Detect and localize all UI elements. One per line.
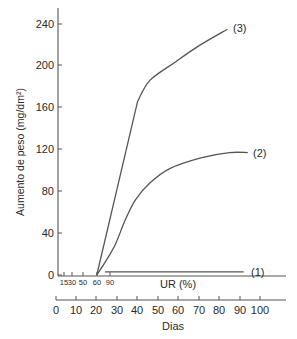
ur-axis-title: UR (%) — [160, 278, 196, 290]
series-2-line — [97, 152, 248, 275]
series-label-2: (2) — [253, 147, 266, 159]
series-layer — [97, 29, 248, 275]
svg-text:50: 50 — [79, 278, 87, 287]
svg-text:30: 30 — [111, 304, 123, 316]
svg-text:200: 200 — [36, 59, 54, 71]
days-ticks — [56, 296, 260, 300]
svg-text:0: 0 — [53, 304, 59, 316]
svg-text:120: 120 — [36, 143, 54, 155]
series-label-3: (3) — [233, 22, 246, 34]
svg-text:10: 10 — [70, 304, 82, 316]
svg-text:90: 90 — [106, 278, 114, 287]
ur-tick-labels: 15 30 50 60 90 — [60, 278, 114, 287]
svg-text:100: 100 — [251, 304, 269, 316]
svg-text:0: 0 — [48, 269, 54, 281]
weight-gain-chart: 0 40 80 120 160 200 240 Aumento de peso … — [0, 0, 297, 339]
svg-text:90: 90 — [234, 304, 246, 316]
svg-text:40: 40 — [42, 227, 54, 239]
svg-text:240: 240 — [36, 18, 54, 30]
y-ticks — [58, 24, 62, 275]
svg-text:80: 80 — [42, 185, 54, 197]
days-tick-labels: 0 10 20 30 40 50 60 70 80 90 100 — [53, 304, 269, 316]
svg-text:80: 80 — [213, 304, 225, 316]
svg-text:60: 60 — [93, 278, 101, 287]
y-axis-title: Aumento de peso (mg/dm²) — [14, 88, 26, 216]
svg-text:160: 160 — [36, 101, 54, 113]
svg-text:40: 40 — [131, 304, 143, 316]
series-label-1: (1) — [251, 266, 264, 278]
y-tick-labels: 0 40 80 120 160 200 240 — [36, 18, 54, 281]
svg-text:50: 50 — [152, 304, 164, 316]
svg-text:70: 70 — [193, 304, 205, 316]
series-3-line — [97, 29, 228, 275]
svg-text:30: 30 — [68, 278, 76, 287]
days-axis-title: Dias — [162, 320, 185, 332]
ur-ticks — [64, 272, 110, 276]
svg-text:60: 60 — [172, 304, 184, 316]
svg-text:20: 20 — [90, 304, 102, 316]
